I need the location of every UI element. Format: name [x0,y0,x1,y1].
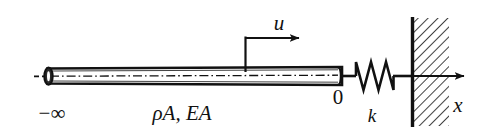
label-spring-stiffness-k: k [368,105,377,126]
spring-zigzag [356,62,394,90]
diagram-canvas: u −∞ ρA, EA 0 k x [0,0,492,134]
label-displacement-u: u [274,11,285,35]
elastic-bar [34,67,342,85]
label-axis-x: x [452,93,463,117]
label-origin-zero: 0 [333,85,344,109]
bar-left-cap-core [47,71,50,81]
label-negative-infinity: −∞ [39,101,66,125]
wall-hatching [413,18,449,126]
rigid-wall [413,17,450,127]
label-bar-properties: ρA, EA [151,101,211,125]
bar-right-cap [338,67,341,85]
figure-root: u −∞ ρA, EA 0 k x [0,0,492,134]
